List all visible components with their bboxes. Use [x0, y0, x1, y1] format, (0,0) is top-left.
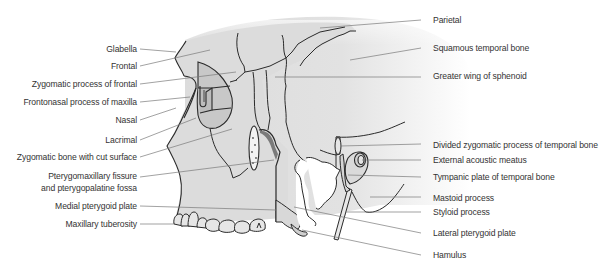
label-parietal: Parietal [433, 15, 461, 25]
label-medial-pterygoid-plate: Medial pterygoid plate [55, 201, 137, 211]
label-greater-wing-of-sphenoid: Greater wing of sphenoid [433, 71, 527, 81]
label-zygomatic-bone-cut-surface: Zygomatic bone with cut surface [17, 152, 137, 162]
label-nasal: Nasal [116, 115, 137, 125]
zygomatic-cut-surface [249, 126, 259, 170]
label-glabella: Glabella [106, 44, 137, 54]
label-pterygopalatine-fossa: and pterygopalatine fossa [41, 183, 137, 193]
label-mastoid-process: Mastoid process [433, 193, 494, 203]
skull-lateral-diagram: Glabella Frontal Zygomatic process of fr… [0, 0, 616, 270]
label-hamulus: Hamulus [433, 250, 466, 260]
skull-illustration [0, 0, 616, 270]
label-tympanic-plate: Tympanic plate of temporal bone [433, 172, 555, 182]
label-maxillary-tuberosity: Maxillary tuberosity [65, 219, 137, 229]
label-pterygomaxillary-fissure: Pterygomaxillary fissure [48, 171, 137, 181]
label-lateral-pterygoid-plate: Lateral pterygoid plate [433, 228, 516, 238]
label-squamous-temporal-bone: Squamous temporal bone [433, 43, 529, 53]
label-external-acoustic-meatus: External acoustic meatus [433, 155, 527, 165]
label-divided-zygomatic-process: Divided zygomatic process of temporal bo… [433, 140, 598, 150]
label-zygomatic-process-of-frontal: Zygomatic process of frontal [32, 79, 137, 89]
label-frontonasal-process-of-maxilla: Frontonasal process of maxilla [23, 97, 137, 107]
label-lacrimal: Lacrimal [105, 135, 137, 145]
label-styloid-process: Styloid process [433, 207, 490, 217]
label-frontal: Frontal [111, 61, 137, 71]
